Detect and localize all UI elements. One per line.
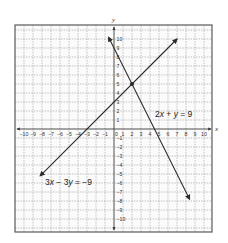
x-tick-label: 8 bbox=[185, 131, 188, 137]
x-tick-label: 4 bbox=[149, 131, 152, 137]
x-tick-label: −3 bbox=[84, 131, 90, 137]
y-tick-label: 4 bbox=[117, 90, 120, 96]
x-tick-label: 9 bbox=[194, 131, 197, 137]
coordinate-plane: −10−9−8−7−6−5−4−3−2−1012345678910−10−9−8… bbox=[0, 0, 228, 243]
x-tick-label: 10 bbox=[201, 131, 207, 137]
y-axis-label: y bbox=[111, 16, 116, 24]
intersection-point bbox=[130, 82, 134, 86]
y-tick-label: −3 bbox=[117, 153, 123, 159]
x-tick-label: 3 bbox=[140, 131, 143, 137]
y-tick-label: −8 bbox=[117, 198, 123, 204]
x-axis-label: x bbox=[214, 125, 219, 133]
y-tick-label: −4 bbox=[117, 162, 123, 168]
x-tick-label: 2 bbox=[131, 131, 134, 137]
y-tick-label: 6 bbox=[117, 72, 120, 78]
x-tick-label: −9 bbox=[30, 131, 36, 137]
y-tick-label: 7 bbox=[117, 63, 120, 69]
x-tick-label: −8 bbox=[39, 131, 45, 137]
y-tick-label: −9 bbox=[117, 207, 123, 213]
x-tick-label: −6 bbox=[57, 131, 63, 137]
x-tick-label: −5 bbox=[66, 131, 72, 137]
y-tick-label: −6 bbox=[117, 180, 123, 186]
y-tick-label: −5 bbox=[117, 171, 123, 177]
equation-label-2: 3x − 3y = −9 bbox=[45, 177, 92, 187]
equation-label-1: 2x + y = 9 bbox=[155, 109, 193, 119]
y-tick-label: −7 bbox=[117, 189, 123, 195]
y-tick-label: −2 bbox=[117, 144, 123, 150]
y-tick-label: 5 bbox=[117, 81, 120, 87]
y-tick-label: 3 bbox=[117, 99, 120, 105]
y-tick-label: 10 bbox=[117, 36, 123, 42]
y-tick-label: −1 bbox=[117, 135, 123, 141]
x-tick-label: −7 bbox=[48, 131, 54, 137]
x-tick-label: 6 bbox=[167, 131, 170, 137]
y-tick-label: −10 bbox=[117, 216, 126, 222]
x-tick-label: 7 bbox=[176, 131, 179, 137]
y-tick-label: 2 bbox=[117, 108, 120, 114]
x-tick-label: −2 bbox=[93, 131, 99, 137]
x-tick-label: −1 bbox=[102, 131, 108, 137]
y-tick-label: 9 bbox=[117, 45, 120, 51]
x-tick-label: −10 bbox=[20, 131, 29, 137]
y-tick-label: 1 bbox=[117, 117, 120, 123]
